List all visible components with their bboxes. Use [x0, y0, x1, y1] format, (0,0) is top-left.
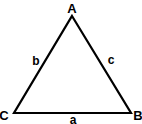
side-label-c: c [108, 53, 115, 67]
side-label-b: b [32, 54, 39, 68]
triangle-diagram: A C B b c a [0, 0, 142, 124]
vertex-label-c: C [0, 108, 9, 123]
side-label-a: a [70, 113, 77, 124]
vertex-label-b: B [133, 108, 142, 123]
vertex-label-a: A [67, 1, 77, 16]
